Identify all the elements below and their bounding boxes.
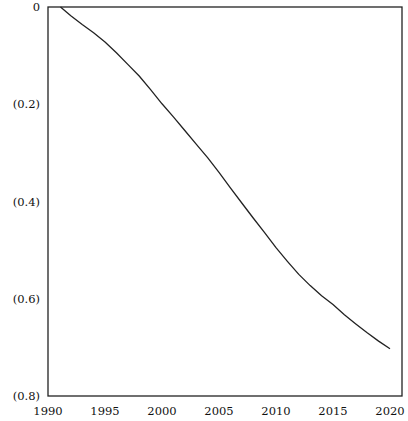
plot-frame [48,7,402,396]
y-axis-ticks: 0(0.2)(0.4)(0.6)(0.8) [13,0,40,403]
x-axis-ticks: 1990199520002005201020152020 [33,404,404,418]
x-tick-label: 2010 [261,404,290,418]
line-chart: 0(0.2)(0.4)(0.6)(0.8) 199019952000200520… [0,0,408,421]
y-tick-label: (0.8) [13,389,40,403]
y-tick-label: 0 [33,0,40,14]
y-tick-label: (0.6) [13,292,40,306]
series-lines [61,7,391,349]
x-tick-label: 2020 [375,404,404,418]
series-line [61,7,391,349]
x-tick-label: 1995 [90,404,119,418]
y-tick-label: (0.2) [13,97,40,111]
x-tick-label: 1990 [33,404,62,418]
y-tick-label: (0.4) [13,195,40,209]
x-tick-label: 2000 [147,404,176,418]
x-tick-label: 2015 [318,404,347,418]
x-tick-label: 2005 [204,404,233,418]
